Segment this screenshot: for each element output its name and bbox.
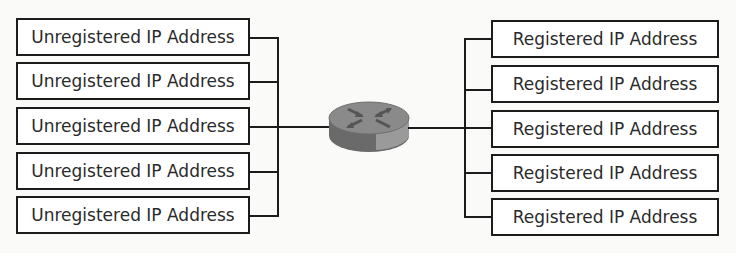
unregistered-ip-box-2: Unregistered IP Address <box>16 62 250 100</box>
unregistered-ip-box-4: Unregistered IP Address <box>16 152 250 190</box>
registered-ip-box-2: Registered IP Address <box>491 65 719 103</box>
right-connector-2 <box>464 89 491 91</box>
left-connector-1 <box>250 37 279 39</box>
unregistered-ip-box-5: Unregistered IP Address <box>16 196 250 234</box>
node-label: Registered IP Address <box>513 29 698 49</box>
right-connector-1 <box>464 38 491 40</box>
node-label: Registered IP Address <box>513 163 698 183</box>
node-label: Unregistered IP Address <box>31 71 234 91</box>
node-label: Unregistered IP Address <box>31 205 234 225</box>
left-connector-5 <box>250 215 279 217</box>
registered-ip-box-3: Registered IP Address <box>491 110 719 148</box>
right-connector-5 <box>464 216 491 218</box>
right-bus <box>464 38 466 218</box>
right-connector-3 <box>408 127 491 129</box>
node-label: Unregistered IP Address <box>31 116 234 136</box>
registered-ip-box-1: Registered IP Address <box>491 20 719 58</box>
left-connector-4 <box>250 171 279 173</box>
left-connector-2 <box>250 81 279 83</box>
node-label: Unregistered IP Address <box>31 161 234 181</box>
router-icon <box>326 100 412 158</box>
left-connector-3 <box>250 126 330 128</box>
right-connector-4 <box>464 172 491 174</box>
unregistered-ip-box-1: Unregistered IP Address <box>16 18 250 56</box>
left-bus <box>277 37 279 217</box>
node-label: Registered IP Address <box>513 119 698 139</box>
node-label: Registered IP Address <box>513 74 698 94</box>
node-label: Registered IP Address <box>513 207 698 227</box>
registered-ip-box-4: Registered IP Address <box>491 154 719 192</box>
node-label: Unregistered IP Address <box>31 27 234 47</box>
registered-ip-box-5: Registered IP Address <box>491 198 719 236</box>
unregistered-ip-box-3: Unregistered IP Address <box>16 107 250 145</box>
